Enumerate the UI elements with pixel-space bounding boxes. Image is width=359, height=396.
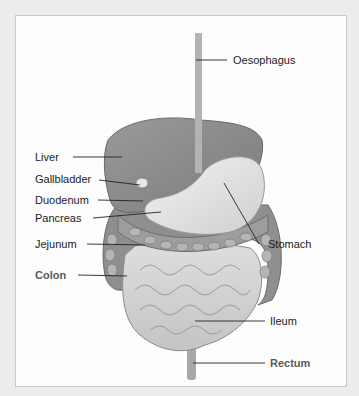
label-stomach: Stomach <box>268 238 311 250</box>
gallbladder-shape <box>136 178 148 188</box>
oesophagus-shape <box>195 33 202 173</box>
small-intestine-shape <box>123 242 262 350</box>
label-pancreas: Pancreas <box>35 212 81 224</box>
label-colon: Colon <box>35 269 66 281</box>
label-duodenum: Duodenum <box>35 194 89 206</box>
label-ileum: Ileum <box>270 315 297 327</box>
label-rectum: Rectum <box>270 357 310 369</box>
label-jejunum: Jejunum <box>35 238 77 250</box>
label-gallbladder: Gallbladder <box>35 173 91 185</box>
label-oesophagus: Oesophagus <box>233 54 295 66</box>
label-liver: Liver <box>35 151 59 163</box>
